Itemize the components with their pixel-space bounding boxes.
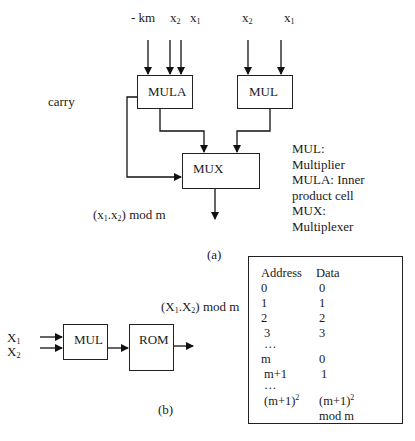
- legend-line: MUL:: [292, 141, 365, 157]
- mula-block: MULA: [137, 75, 193, 109]
- legend-line: MUX:: [292, 203, 365, 219]
- input-label-x2-mul: x2: [242, 10, 253, 26]
- input-label-x1-mul: x1: [284, 10, 295, 26]
- carry-label: carry: [48, 94, 75, 110]
- rom-contents-table: Address Data 0 0 1 1 2 2 3 3 … m 0 m+1 1…: [248, 256, 403, 424]
- mul-label-a: MUL: [249, 84, 278, 100]
- mul-block-a: MUL: [237, 75, 293, 109]
- legend-line: Multiplier: [292, 157, 365, 173]
- mula-label: MULA: [148, 84, 186, 100]
- legend-line: MULA: Inner: [292, 172, 365, 188]
- input-label-X2: X2: [7, 344, 20, 360]
- output-label-b: (X1.X2) mod m: [161, 299, 239, 315]
- input-label-x2-mula: x2: [170, 10, 181, 26]
- input-label-x1-mula: x1: [190, 10, 201, 26]
- input-label-neg-km: - km: [131, 10, 155, 26]
- mul-block-b: MUL: [63, 324, 108, 360]
- legend-line: Multiplexer: [292, 219, 365, 235]
- rom-label: ROM: [139, 332, 169, 348]
- output-label-a: (x1.x2) mod m: [93, 207, 166, 223]
- mul-label-b: MUL: [74, 332, 103, 348]
- rom-block: ROM: [129, 324, 174, 371]
- mux-block: MUX: [182, 153, 260, 189]
- caption-b: (b): [158, 402, 173, 418]
- legend-line: product cell: [292, 188, 365, 204]
- mux-label: MUX: [193, 161, 223, 177]
- caption-a: (a): [207, 247, 221, 263]
- legend: MUL: Multiplier MULA: Inner product cell…: [292, 141, 365, 234]
